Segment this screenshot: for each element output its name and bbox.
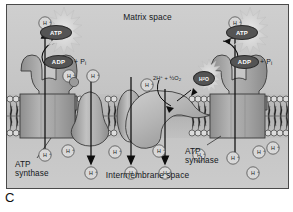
phosphate-left-subscript: i [85,60,86,66]
svg-text:H: H [67,73,71,79]
svg-text:H: H [257,149,261,155]
matrix-space-label: Matrix space [7,13,288,22]
svg-text:H: H [66,148,70,154]
svg-text:H: H [157,148,161,154]
atp-synthase-right-line2: synthase [185,156,219,165]
atp-molecule-right: ATP [226,25,258,40]
adp-molecule-left: ADP [44,55,73,69]
svg-text:H: H [113,149,117,155]
svg-text:H: H [231,155,235,161]
phosphate-right-subscript: i [271,60,272,66]
panel-letter: C [5,190,14,205]
atp-synthase-right-label: ATP synthase [185,147,219,166]
atp-molecule-left: ATP [40,25,72,40]
intermembrane-space-label: Intermembrane space [7,171,288,180]
svg-text:H: H [271,145,275,151]
diagram-frame: H+ H+ H+ H+ H+ H+ H+ H+ H+ H+ H+ H+ H+ H… [6,4,289,189]
svg-text:H: H [43,152,47,158]
phosphate-left-label: + Pi [74,57,86,68]
water-suffix: O [205,76,209,82]
atp-synthase-left-label: ATP synthase [15,160,49,179]
figure-panel: H+ H+ H+ H+ H+ H+ H+ H+ H+ H+ H+ H+ H+ H… [0,0,293,212]
phosphate-right-label: + Pi [260,57,272,68]
phosphate-right-text: + P [260,58,271,65]
reaction-middle: + ½O [163,75,179,81]
reaction-subscript: 2 [179,77,181,82]
atp-synthase-left-line2: synthase [15,169,49,178]
svg-text:H: H [145,82,149,88]
phosphate-left-text: + P [74,58,85,65]
water-reaction-label: 2H+ + ½O2 [153,72,181,84]
adp-molecule-right: ADP [230,55,259,69]
atp-synthase-left-line1: ATP [15,160,31,169]
svg-text:H: H [91,73,95,79]
atp-synthase-right-line1: ATP [185,147,201,156]
water-molecule: H2O [193,71,215,86]
